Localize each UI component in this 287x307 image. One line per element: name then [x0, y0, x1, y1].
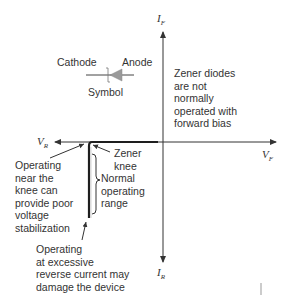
if-axis-label: IF [157, 12, 165, 30]
vf-axis-label: VF [262, 148, 273, 166]
zener-knee-label: Zener knee [114, 147, 141, 172]
zener-diode-symbol-icon [86, 68, 134, 82]
zener-characteristic-diagram: IF IR VR VF Cathode Anode Symbol Zener d… [0, 0, 287, 307]
normal-range-brace [92, 154, 100, 214]
anode-label: Anode [122, 56, 152, 69]
cathode-label: Cathode [57, 56, 97, 69]
symbol-caption: Symbol [88, 86, 123, 99]
ir-axis-label: IR [157, 266, 165, 284]
vr-axis-label: VR [37, 135, 48, 153]
near-knee-pointer [50, 144, 84, 158]
zener-knee-pointer [93, 145, 110, 152]
near-knee-note: Operating near the knee can provide poor… [15, 159, 73, 235]
normal-range-label: Normal operating range [101, 172, 145, 210]
excessive-pointer [82, 222, 86, 240]
excessive-current-note: Operating at excessive reverse current m… [36, 243, 129, 293]
forward-bias-note: Zener diodes are not normally operated w… [174, 67, 237, 130]
